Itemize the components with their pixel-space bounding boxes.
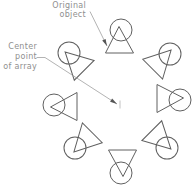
center-point-label: Center point of array <box>0 42 37 72</box>
center-point-label-line1: Center <box>0 42 37 52</box>
array-drawing <box>0 0 194 187</box>
center-point-leader-arrowhead <box>110 99 117 104</box>
center-point-label-line3: of array <box>0 62 37 72</box>
array-object-bottom <box>109 150 137 184</box>
original-object-leader-arrowhead <box>102 39 107 46</box>
array-object-left <box>43 93 77 121</box>
array-object-right <box>157 85 191 113</box>
array-object-top <box>106 19 134 53</box>
array-object-top-left <box>50 36 94 80</box>
array-object-bottom-right <box>142 121 186 165</box>
original-object-label: Original object <box>36 1 86 19</box>
polar-array-diagram: Original object Center point of array <box>0 0 194 187</box>
center-point-label-line2: point <box>0 52 37 62</box>
original-object-label-line2: object <box>36 10 86 19</box>
original-object-label-line1: Original <box>36 1 86 10</box>
array-object-bottom-left <box>58 123 102 167</box>
array-object-top-right <box>143 35 187 79</box>
